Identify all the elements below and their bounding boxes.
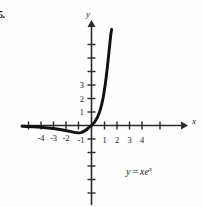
y-axis-label: y — [85, 9, 90, 19]
x-tick-label-3: 3 — [127, 135, 131, 145]
function-curve — [22, 30, 112, 133]
function-equation-label: y=xex — [126, 166, 152, 177]
equation-equals-sign: = — [130, 166, 140, 177]
x-axis-arrow-icon — [181, 122, 188, 130]
x-tick-label-2: 2 — [115, 135, 119, 145]
equation-rhs-exponent: x — [149, 165, 152, 172]
x-tick-label--1: -1 — [77, 135, 84, 145]
y-tick-label-3: 3 — [80, 80, 84, 90]
equation-rhs-base: xe — [140, 166, 149, 177]
y-tick-label-1: 1 — [80, 107, 84, 117]
x-tick-label--2: -2 — [62, 133, 69, 143]
y-tick-label-2: 2 — [80, 94, 84, 104]
x-tick-label-4: 4 — [140, 135, 145, 145]
y-axis-arrow-icon — [88, 20, 96, 27]
figure-container: 5. — [0, 0, 202, 207]
x-tick-label-1: 1 — [102, 135, 106, 145]
x-axis-label: x — [191, 116, 196, 126]
graph-plot: -4 -3 -2 -1 1 2 3 4 1 2 3 y x — [0, 0, 202, 207]
x-tick-label--4: -4 — [37, 133, 45, 143]
x-tick-label--3: -3 — [50, 133, 57, 143]
